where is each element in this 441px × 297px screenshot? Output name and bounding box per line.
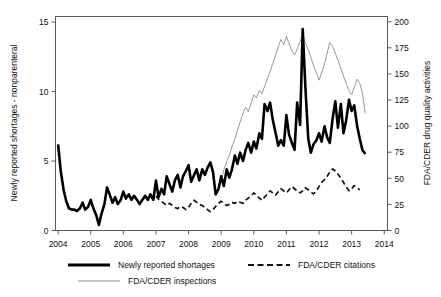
x-tick-label: 2008	[179, 239, 198, 249]
y-tick-label-left: 0	[44, 226, 49, 236]
y-axis-left-title: Newly reported shortages - nonparenteral	[9, 44, 19, 201]
x-tick-label: 2006	[114, 239, 133, 249]
x-tick-label: 2009	[212, 239, 231, 249]
x-tick-label: 2010	[244, 239, 263, 249]
y-tick-label-right: 25	[395, 200, 405, 210]
y-tick-label-right: 175	[395, 43, 409, 53]
x-tick-label: 2012	[310, 239, 329, 249]
x-tick-label: 2004	[49, 239, 68, 249]
y-tick-label-right: 75	[395, 147, 405, 157]
y-tick-label-left: 15	[39, 17, 49, 27]
legend-label: FDA/CDER inspections	[128, 276, 216, 286]
y-tick-label-left: 5	[44, 156, 49, 166]
x-tick-label: 2011	[277, 239, 296, 249]
chart-background	[0, 0, 441, 297]
drug-shortage-chart: 051015 0255075100125150175200 2004200520…	[0, 0, 441, 297]
y-tick-label-right: 100	[395, 121, 409, 131]
y-tick-label-right: 200	[395, 17, 409, 27]
y-axis-right-title: FDA/CDER drug quality activities	[422, 61, 432, 186]
y-tick-label-right: 125	[395, 95, 409, 105]
x-tick-label: 2005	[81, 239, 100, 249]
x-tick-label: 2014	[375, 239, 394, 249]
y-tick-label-right: 50	[395, 174, 405, 184]
y-tick-label-left: 10	[39, 87, 49, 97]
x-tick-label: 2007	[146, 239, 165, 249]
x-tick-label: 2013	[342, 239, 361, 249]
y-tick-label-right: 150	[395, 69, 409, 79]
y-tick-label-right: 0	[395, 226, 400, 236]
legend-label: FDA/CDER citations	[298, 260, 375, 270]
legend-label: Newly reported shortages	[118, 260, 215, 270]
